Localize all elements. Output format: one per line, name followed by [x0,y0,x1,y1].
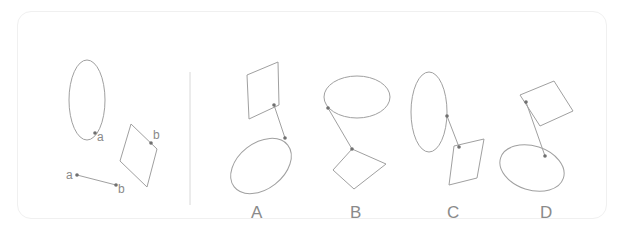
puzzle-figure: a a b b A B C D [0,0,617,232]
option-label-a: A [251,203,263,222]
option-c-ellipse [411,72,447,152]
label-b-segment: b [118,182,125,196]
label-a-segment: a [66,168,73,182]
option-b-rhombus [333,149,386,189]
option-a-rhombus [247,62,279,119]
label-a-ellipse: a [97,130,104,144]
option-d-ellipse [494,137,570,199]
option-b-link [328,108,352,149]
option-c-rhombus [449,139,484,185]
option-a-ellipse [220,127,302,205]
option-label-b: B [350,203,361,222]
option-d-rhombus [520,81,573,126]
option-a-link [274,105,285,138]
given-ellipse [69,60,105,140]
option-label-c: C [447,203,459,222]
option-label-d: D [540,203,552,222]
label-b-rhombus: b [153,128,160,142]
option-c-link [447,116,459,147]
option-b-ellipse [324,76,390,118]
option-d-link [526,102,545,156]
given-rhombus [120,124,157,187]
given-segment [77,175,116,185]
